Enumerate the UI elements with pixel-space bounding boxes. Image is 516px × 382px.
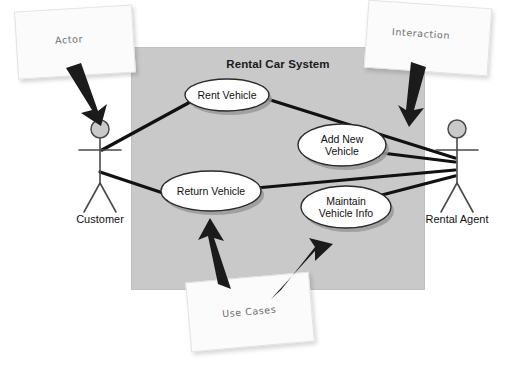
callout-arrow-interaction [398,62,426,127]
callout-arrow-use-cases-right [271,238,333,299]
use-case-diagram-canvas: Rental Car System [0,0,516,382]
callout-arrow-use-cases-left [198,218,231,289]
callout-arrow-actor [66,63,107,126]
callout-arrows-layer [0,0,516,382]
